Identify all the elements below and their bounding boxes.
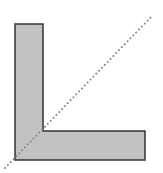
diagram-canvas xyxy=(0,0,163,173)
